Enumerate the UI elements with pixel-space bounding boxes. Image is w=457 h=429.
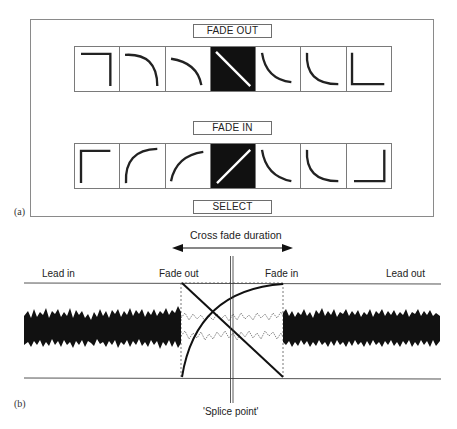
lead-in-waveform xyxy=(24,306,181,349)
fade-out-label: Fade out xyxy=(159,268,198,279)
panel-b-caption: (b) xyxy=(14,398,26,409)
fade-out-waveform-upper xyxy=(181,312,283,321)
crossfade-duration-arrow-icon xyxy=(172,244,293,252)
crossfade-diagram xyxy=(0,0,457,429)
splice-point-label: 'Splice point' xyxy=(203,406,259,417)
fade-in-label: Fade in xyxy=(265,268,298,279)
lead-out-waveform xyxy=(283,308,440,347)
lead-in-label: Lead in xyxy=(42,268,75,279)
lead-out-label: Lead out xyxy=(386,268,425,279)
crossfade-duration-label: Cross fade duration xyxy=(190,229,282,241)
top-level-line xyxy=(24,283,441,284)
bottom-level-line xyxy=(24,378,441,379)
